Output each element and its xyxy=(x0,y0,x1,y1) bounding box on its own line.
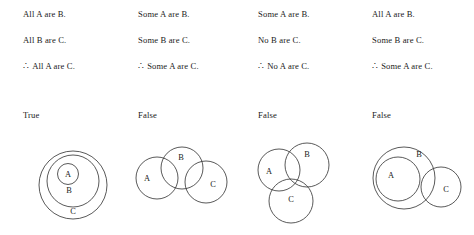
conclusion-text: Some A are C. xyxy=(381,61,433,71)
venn-label-a: A xyxy=(388,171,394,180)
therefore-icon: ∴ xyxy=(372,62,378,71)
venn-svg: A B C xyxy=(129,140,247,235)
venn-label-c: C xyxy=(288,195,294,204)
circle-b xyxy=(47,155,99,207)
venn-label-c: C xyxy=(70,207,76,216)
syllogism-column-4: All A are B. Some B are C. ∴Some A are C… xyxy=(363,0,474,235)
premise-2: All B are C. xyxy=(23,36,135,45)
syllogism-column-2: Some A are B. Some B are C. ∴Some A are … xyxy=(129,0,247,235)
premise-2: No B are C. xyxy=(258,36,370,45)
premise-2: Some B are C. xyxy=(372,36,474,45)
venn-diagram-1: A B C xyxy=(14,140,132,235)
circle-a xyxy=(136,157,178,199)
venn-svg: A B C xyxy=(363,140,474,235)
premise-1: Some A are B. xyxy=(258,10,370,19)
premise-block: All A are B. All B are C. ∴All A are C. xyxy=(23,10,135,71)
conclusion-text: Some A are C. xyxy=(147,61,199,71)
conclusion-text: No A are C. xyxy=(267,61,309,71)
circle-c xyxy=(421,167,461,207)
circle-a xyxy=(376,157,420,201)
conclusion-line: ∴All A are C. xyxy=(23,62,135,71)
verdict-label: False xyxy=(372,111,391,120)
conclusion-line: ∴Some A are C. xyxy=(372,62,474,71)
venn-label-c: C xyxy=(443,185,449,194)
venn-label-a: A xyxy=(266,167,272,176)
circle-a xyxy=(258,149,300,191)
premise-1: All A are B. xyxy=(23,10,135,19)
venn-diagram-2: A B C xyxy=(129,140,247,235)
venn-diagram-3: A B C xyxy=(249,140,367,235)
venn-label-c: C xyxy=(210,180,216,189)
venn-diagram-4: A B C xyxy=(363,140,474,235)
verdict-label: False xyxy=(138,111,157,120)
therefore-icon: ∴ xyxy=(258,62,264,71)
conclusion-text: All A are C. xyxy=(32,61,75,71)
therefore-icon: ∴ xyxy=(138,62,144,71)
conclusion-line: ∴Some A are C. xyxy=(138,62,250,71)
syllogism-column-1: All A are B. All B are C. ∴All A are C. … xyxy=(14,0,132,235)
verdict-label: True xyxy=(23,111,40,120)
conclusion-line: ∴No A are C. xyxy=(258,62,370,71)
venn-label-b: B xyxy=(178,153,184,162)
premise-1: All A are B. xyxy=(372,10,474,19)
venn-label-b: B xyxy=(66,186,72,195)
venn-svg: A B C xyxy=(14,140,132,235)
premise-block: Some A are B. Some B are C. ∴Some A are … xyxy=(138,10,250,71)
venn-label-b: B xyxy=(304,150,310,159)
circle-c xyxy=(185,161,227,203)
verdict-label: False xyxy=(258,111,277,120)
therefore-icon: ∴ xyxy=(23,62,29,71)
venn-svg: A B C xyxy=(249,140,367,235)
venn-label-a: A xyxy=(65,170,71,179)
premise-block: Some A are B. No B are C. ∴No A are C. xyxy=(258,10,370,71)
premise-block: All A are B. Some B are C. ∴Some A are C… xyxy=(372,10,474,71)
venn-label-a: A xyxy=(144,174,150,183)
syllogism-figure: All A are B. All B are C. ∴All A are C. … xyxy=(0,0,474,235)
venn-label-b: B xyxy=(416,150,422,159)
syllogism-column-3: Some A are B. No B are C. ∴No A are C. F… xyxy=(249,0,367,235)
premise-2: Some B are C. xyxy=(138,36,250,45)
premise-1: Some A are B. xyxy=(138,10,250,19)
